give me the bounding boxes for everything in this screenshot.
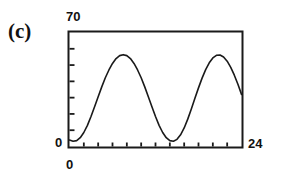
axis-frame <box>69 32 243 148</box>
data-series-line <box>70 55 242 142</box>
x-axis-ticks <box>84 143 227 147</box>
plot-area <box>0 0 282 177</box>
figure-panel: (c) 70 0 0 24 <box>0 0 282 177</box>
y-axis-ticks <box>70 49 75 130</box>
